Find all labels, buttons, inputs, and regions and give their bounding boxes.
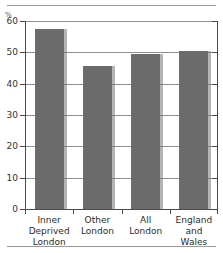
y-tick-left-60 (20, 21, 26, 22)
plot-area (25, 21, 218, 209)
y-tick-label-50: 50 (0, 48, 18, 57)
y-tick-label-60: 60 (0, 17, 18, 26)
x-axis-separator-1 (73, 209, 74, 214)
y-tick-left-30 (20, 115, 26, 116)
x-label-other-london: Other London (73, 215, 121, 249)
y-tick-label-40: 40 (0, 80, 18, 89)
top-divider-rule (7, 5, 216, 6)
y-tick-label-10: 10 (0, 174, 18, 183)
bar-1 (83, 66, 112, 209)
x-axis-separator-3 (170, 209, 171, 214)
x-label-inner-deprived-london: Inner Deprived London (25, 215, 73, 249)
bar-3 (179, 51, 208, 209)
gridline-60 (25, 21, 218, 22)
y-tick-left-10 (20, 178, 26, 179)
y-tick-label-30: 30 (0, 111, 18, 120)
y-tick-left-0 (20, 209, 26, 210)
y-tick-left-40 (20, 84, 26, 85)
y-tick-left-20 (20, 146, 26, 147)
bar-2 (131, 54, 160, 209)
x-label-england-and-wales: England and Wales (170, 215, 218, 249)
y-tick-label-20: 20 (0, 142, 18, 151)
x-axis-category-labels: Inner Deprived London Other London All L… (25, 215, 218, 249)
x-label-all-london: All London (122, 215, 170, 249)
y-tick-right-40 (212, 84, 218, 85)
bar-chart-figure: % Inner Deprived London Other London All… (0, 0, 223, 253)
y-tick-right-50 (212, 52, 218, 53)
bar-0 (35, 29, 64, 209)
y-tick-right-0 (212, 209, 218, 210)
y-tick-right-10 (212, 178, 218, 179)
y-tick-right-30 (212, 115, 218, 116)
y-tick-label-0: 0 (0, 205, 18, 214)
x-axis-separator-2 (122, 209, 123, 214)
y-tick-right-60 (212, 21, 218, 22)
y-tick-left-50 (20, 52, 26, 53)
y-tick-right-20 (212, 146, 218, 147)
